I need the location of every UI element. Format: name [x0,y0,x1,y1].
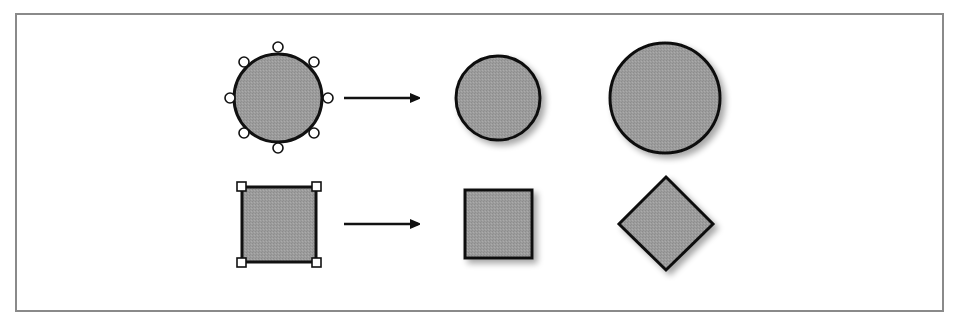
result-square-shape[interactable] [465,190,532,258]
resize-handle-top-left[interactable] [237,182,246,191]
selected-square-shape[interactable] [242,187,316,262]
result-circle-shape[interactable] [456,56,540,140]
resize-handle-top-right[interactable] [312,182,321,191]
resize-handle-bottom-right[interactable] [309,128,319,138]
resize-handle-bottom-right[interactable] [312,258,321,267]
resize-handle-top-left[interactable] [239,57,249,67]
resize-handle-top-right[interactable] [309,57,319,67]
rotated-diamond-shape[interactable] [619,177,713,270]
resize-handle-bottom[interactable] [273,143,283,153]
selected-square-with-handles[interactable] [237,182,321,267]
diagram-canvas [0,0,963,324]
resize-handle-top[interactable] [273,42,283,52]
selected-circle-with-handles[interactable] [225,42,333,153]
resize-handle-bottom-left[interactable] [239,128,249,138]
resize-handle-left[interactable] [225,93,235,103]
enlarged-circle-shape[interactable] [610,43,720,153]
resize-handle-bottom-left[interactable] [237,258,246,267]
resize-handle-right[interactable] [323,93,333,103]
